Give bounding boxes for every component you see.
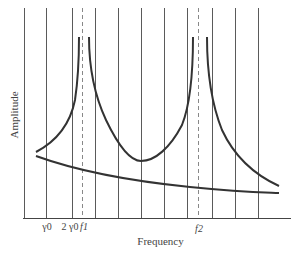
tick-2gamma0: 2 γ0: [62, 221, 79, 232]
vertical-grid-lines: [25, 8, 259, 218]
resonance-curve-right: [207, 37, 279, 186]
tick-f1: f1: [80, 221, 88, 232]
tick-f2: f2: [195, 223, 203, 234]
x-axis-label: Frequency: [0, 235, 301, 247]
y-axis-label: Amplitude: [8, 91, 20, 138]
chart-canvas: [0, 0, 301, 256]
tick-gamma0: γ0: [42, 221, 51, 232]
